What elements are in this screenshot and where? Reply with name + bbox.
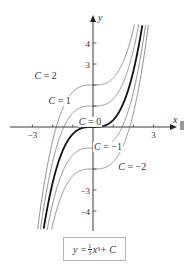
curve-label: C = −2: [118, 161, 146, 172]
formula-rhs: + C: [100, 244, 116, 255]
y-tick-label: 3: [86, 60, 91, 70]
page-edge-marker: [180, 121, 184, 130]
formula-lhs: y =: [73, 244, 87, 255]
x-tick-label: 3: [151, 130, 156, 140]
y-tick-label: 4: [86, 39, 91, 49]
x-axis-label: x: [172, 114, 178, 125]
curve-label: C = 2: [34, 70, 56, 81]
y-tick-label: −4: [80, 207, 90, 217]
fraction-denominator: 3: [88, 250, 91, 256]
curve-label: C = −1: [94, 141, 122, 152]
curve-label: C = 0: [79, 116, 101, 127]
curve-label: C = 1: [49, 95, 71, 106]
slope-field-plot: −3343−3−4xy C = 2C = 1C = 0C = −1C = −2: [0, 0, 184, 264]
y-axis-label: y: [97, 12, 103, 23]
fraction-numerator: 1: [88, 243, 92, 250]
y-axis-arrow-icon: [90, 15, 96, 22]
formula-box: y = 1 3 x3 + C: [63, 237, 126, 261]
x-tick-label: −3: [28, 130, 38, 140]
fraction: 1 3: [88, 243, 92, 256]
y-tick-label: −3: [80, 186, 90, 196]
